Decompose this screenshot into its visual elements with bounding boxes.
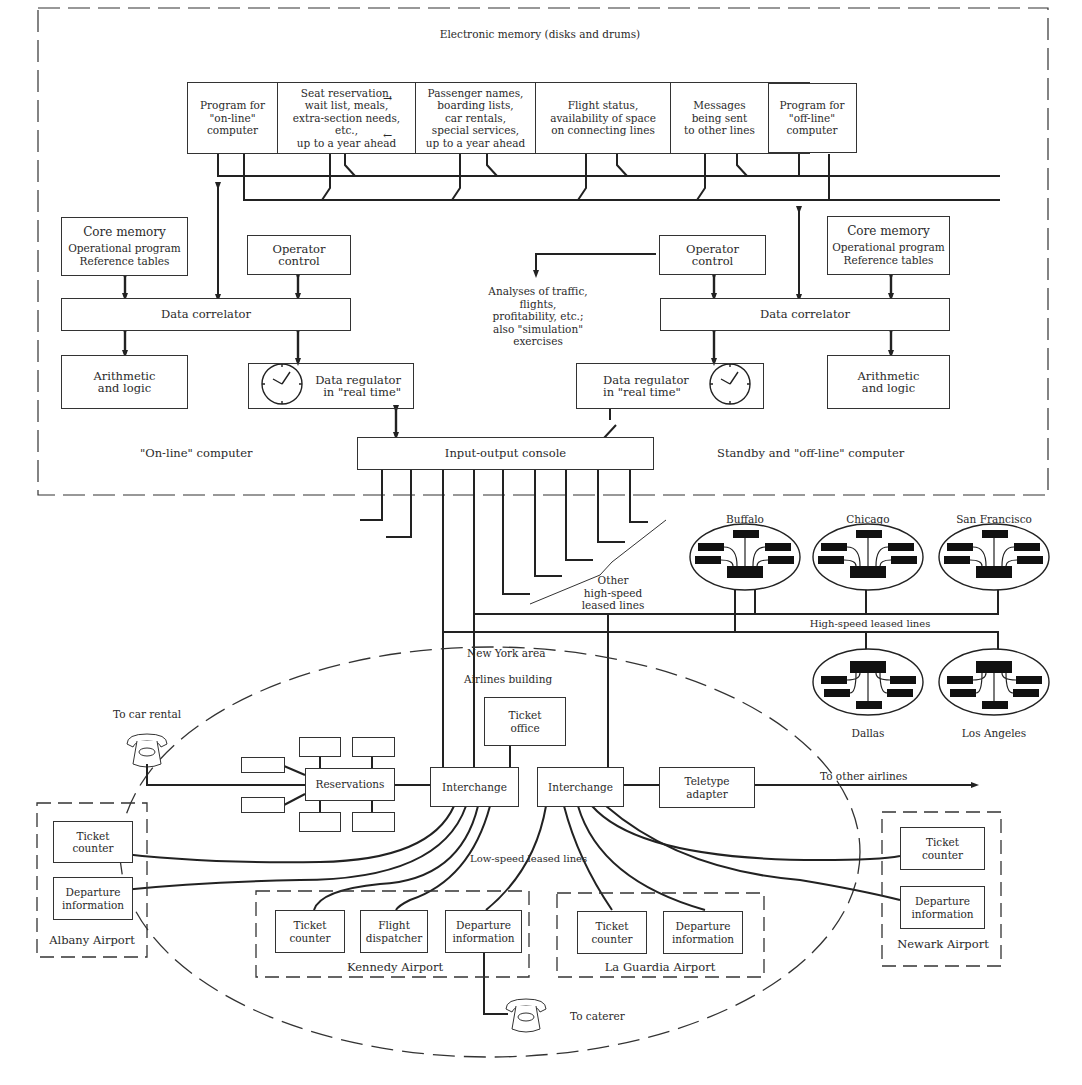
city-chicago: Chicago [838, 513, 898, 526]
offline-arithmetic-logic: Arithmetic and logic [827, 355, 950, 409]
newark-ticket-counter: Ticket counter [900, 827, 985, 870]
city-san-francisco: San Francisco [949, 513, 1039, 526]
offline-core-memory: Core memory Operational program Referenc… [827, 216, 950, 275]
phone-icon-caterer [504, 997, 548, 1033]
clock-icon-online [262, 364, 302, 404]
laguardia-airport-label: La Guardia Airport [600, 961, 720, 974]
analyses-label: Analyses of traffic, flights, profitabil… [478, 285, 598, 348]
memory-divider [768, 83, 769, 153]
arrow-right-icon: → [383, 93, 392, 106]
to-caterer-label: To caterer [570, 1010, 625, 1023]
interchange-right: Interchange [537, 767, 624, 807]
online-operator-control[interactable]: Operator control [247, 235, 351, 275]
memory-cell-messages: Messagesbeing sentto other lines [671, 83, 769, 153]
clock-icon-offline [710, 364, 750, 404]
online-core-memory: Core memory Operational program Referenc… [61, 217, 188, 276]
city-buffalo: Buffalo [715, 513, 775, 526]
kennedy-flight-dispatcher: Flight dispatcher [360, 910, 428, 953]
airlines-building-label: Airlines building [464, 673, 552, 686]
kennedy-departure-information: Departure information [445, 910, 522, 953]
offline-operator-control[interactable]: Operator control [659, 235, 766, 275]
memory-cell-offline-program: Program for"off-line"computer [768, 83, 857, 153]
reservations-terminal [241, 797, 285, 813]
laguardia-ticket-counter: Ticket counter [577, 911, 647, 954]
memory-cell-online-program: Program for"on-line"computer [188, 83, 278, 153]
reservations-terminal [299, 812, 341, 832]
electronic-memory-bank: Program for"on-line"computer Seat reserv… [187, 82, 810, 154]
phone-icon-car-rental [125, 730, 169, 766]
high-speed-leased-lines-label: High-speed leased lines [800, 618, 940, 631]
new-york-area-label: New York area [467, 647, 546, 660]
other-high-speed-lines-label: Other high-speed leased lines [573, 574, 653, 612]
reservations: Reservations [305, 768, 395, 801]
city-los-angeles: Los Angeles [954, 727, 1034, 740]
memory-cell-seat-reservation: Seat reservation,wait list, meals,extra-… [278, 83, 416, 153]
city-dallas: Dallas [838, 727, 898, 740]
newark-airport-label: Newark Airport [893, 938, 993, 951]
reservations-terminal [299, 737, 341, 757]
to-other-airlines-label: To other airlines [820, 770, 907, 783]
laguardia-departure-information: Departure information [663, 911, 743, 954]
kennedy-airport-label: Kennedy Airport [340, 961, 450, 974]
reservations-terminal [352, 812, 395, 832]
kennedy-ticket-counter: Ticket counter [275, 910, 345, 953]
albany-ticket-counter: Ticket counter [53, 821, 133, 863]
online-arithmetic-logic: Arithmetic and logic [61, 355, 188, 409]
memory-cell-passenger-names: Passenger names,boarding lists,car renta… [416, 83, 536, 153]
reservations-terminal [241, 757, 285, 773]
low-speed-leased-lines-label: Low-speed leased lines [470, 853, 587, 866]
online-computer-label: "On-line" computer [140, 447, 252, 460]
arrow-left-icon: ← [383, 130, 392, 143]
offline-data-correlator: Data correlator [660, 298, 950, 331]
albany-departure-information: Departure information [53, 877, 133, 920]
offline-computer-label: Standby and "off-line" computer [717, 447, 904, 460]
electronic-memory-title: Electronic memory (disks and drums) [380, 28, 700, 41]
reservations-terminal [352, 737, 395, 757]
teletype-adapter: Teletype adapter [659, 767, 755, 808]
newark-departure-information: Departure information [900, 886, 985, 929]
to-car-rental-label: To car rental [113, 708, 181, 721]
interchange-left: Interchange [430, 767, 519, 807]
input-output-console: Input-output console [357, 437, 654, 470]
albany-airport-label: Albany Airport [45, 934, 139, 947]
ticket-office: Ticket office [484, 697, 566, 746]
memory-cell-flight-status: Flight status,availability of spaceon co… [536, 83, 671, 153]
online-data-correlator: Data correlator [61, 298, 351, 331]
